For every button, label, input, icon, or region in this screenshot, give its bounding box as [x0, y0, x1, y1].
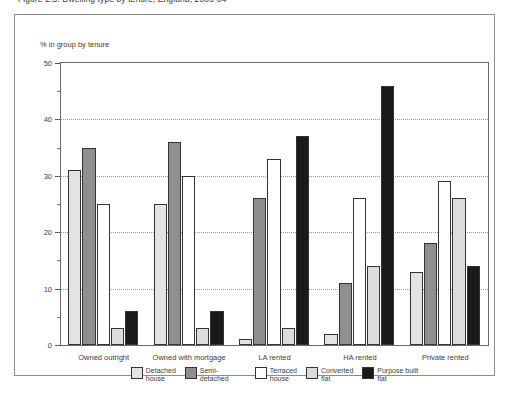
legend-item: Semi-detached: [185, 367, 246, 382]
y-axis-tick-label: 10: [32, 284, 52, 293]
bar: [267, 159, 280, 345]
bar: [296, 136, 309, 345]
figure-card: % in group by tenure 01020304050 Owned o…: [14, 14, 495, 376]
bar-group: [61, 63, 146, 345]
legend-label: Purpose built flat: [377, 367, 418, 382]
bar: [68, 170, 81, 345]
bar: [97, 204, 110, 345]
legend-swatch: [131, 367, 143, 379]
bar-group: [403, 63, 488, 345]
figure-title: Figure 2.5: Dwelling type by tenure, Eng…: [18, 0, 488, 6]
bar: [467, 266, 480, 345]
x-axis-category-label: Private rented: [422, 353, 469, 362]
bar: [381, 86, 394, 345]
y-axis-tick-major: [55, 232, 60, 233]
bar: [196, 328, 209, 345]
bar-group: [317, 63, 402, 345]
legend-label: Semi-detached: [200, 367, 246, 382]
y-axis-tick-major: [55, 119, 60, 120]
legend-swatch: [185, 367, 197, 379]
x-axis-category-label: Owned outright: [78, 353, 129, 362]
bar: [438, 181, 451, 345]
y-axis-tick-label: 0: [32, 341, 52, 350]
y-axis-tick-minor: [57, 260, 60, 261]
bar: [410, 272, 423, 345]
bar: [239, 339, 252, 345]
x-axis-category-label: Owned with mortgage: [153, 353, 226, 362]
y-axis-tick-minor: [57, 148, 60, 149]
chart-legend: Detached houseSemi-detachedTerraced hous…: [60, 367, 489, 382]
bar-group: [146, 63, 231, 345]
plot-inner: [61, 63, 488, 345]
y-axis-tick-minor: [57, 204, 60, 205]
y-axis-tick-major: [55, 63, 60, 64]
legend-swatch: [255, 367, 267, 379]
y-axis-tick-major: [55, 176, 60, 177]
x-axis-category-label: LA rented: [258, 353, 290, 362]
bar: [168, 142, 181, 345]
legend-item: Converted flat: [306, 367, 353, 382]
bar: [82, 148, 95, 345]
y-axis-tick-minor: [57, 91, 60, 92]
bar: [339, 283, 352, 345]
plot-area: [60, 62, 489, 346]
y-axis-title: % in group by tenure: [40, 40, 109, 49]
bar: [367, 266, 380, 345]
legend-swatch: [306, 367, 318, 379]
y-axis-tick-minor: [57, 317, 60, 318]
bar: [182, 176, 195, 345]
y-axis-tick-major: [55, 289, 60, 290]
bar: [125, 311, 138, 345]
y-axis-tick-label: 50: [32, 59, 52, 68]
bar: [324, 334, 337, 345]
bar: [210, 311, 223, 345]
legend-item: Terraced house: [255, 367, 297, 382]
legend-label: Terraced house: [270, 367, 297, 382]
bar: [111, 328, 124, 345]
bar-group: [232, 63, 317, 345]
y-axis-tick-label: 20: [32, 228, 52, 237]
x-axis-category-label: HA rented: [343, 353, 376, 362]
y-axis-tick-major: [55, 345, 60, 346]
legend-label: Detached house: [146, 367, 176, 382]
bar: [452, 198, 465, 345]
bar: [424, 243, 437, 345]
legend-swatch: [362, 367, 374, 379]
y-axis-tick-label: 30: [32, 171, 52, 180]
legend-label: Converted flat: [321, 367, 353, 382]
bar: [353, 198, 366, 345]
figure-container: Figure 2.5: Dwelling type by tenure, Eng…: [0, 0, 509, 393]
y-axis-tick-label: 40: [32, 115, 52, 124]
bar: [282, 328, 295, 345]
legend-item: Purpose built flat: [362, 367, 418, 382]
bar: [253, 198, 266, 345]
legend-item: Detached house: [131, 367, 176, 382]
bar: [154, 204, 167, 345]
